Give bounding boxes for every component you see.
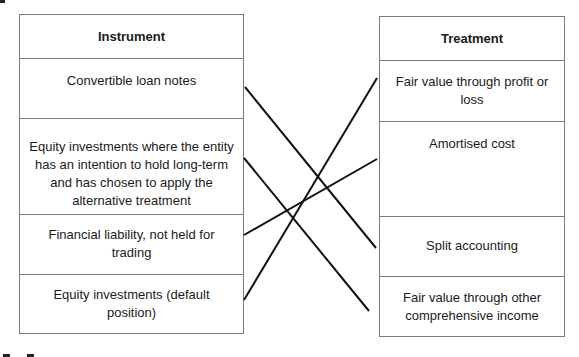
- connector-lines: [0, 0, 579, 357]
- connector-equity-lt-to-fvoci: [244, 158, 369, 311]
